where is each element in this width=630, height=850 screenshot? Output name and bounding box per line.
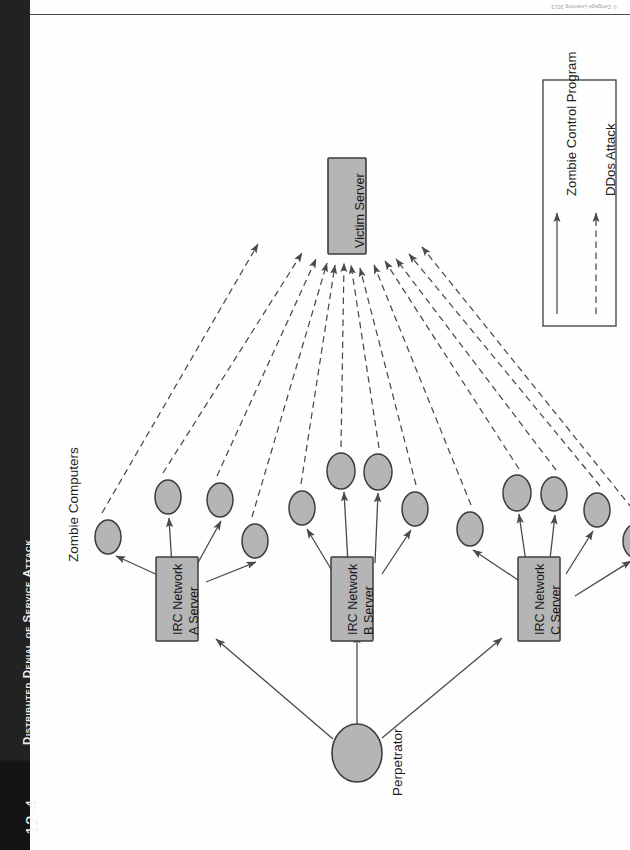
- node-shapes: [95, 158, 630, 782]
- legend-label-control: Zombie Control Program: [564, 52, 579, 196]
- irc-c-label-line2: C Server: [549, 585, 564, 635]
- ddos-diagram: Zombie Computers Perpetrator Victim Serv…: [30, 16, 630, 850]
- irc-b-label-line2: B Server: [362, 586, 377, 635]
- zombie-computers-label: Zombie Computers: [66, 447, 81, 562]
- irc-c-label-line1: IRC Network: [533, 564, 548, 635]
- copyright-credit: © Cengage Learning 2013: [538, 1, 630, 12]
- header-rule: [30, 14, 630, 15]
- victim-server-label: Victim Server: [353, 173, 368, 248]
- legend-label-attack: DDos Attack: [603, 123, 618, 196]
- zombie-nodes: [95, 453, 630, 558]
- irc-a-label-line2: A Server: [187, 587, 202, 635]
- legend-box: [543, 80, 616, 326]
- perpetrator-label: Perpetrator: [390, 728, 405, 796]
- irc-b-label-line1: IRC Network: [346, 564, 361, 635]
- diagram-svg: [30, 16, 630, 850]
- irc-a-label-line1: IRC Network: [171, 564, 186, 635]
- textbook-page: Distributed Denial of Service Attack 12-…: [0, 0, 630, 850]
- perpetrator-node: [332, 724, 382, 782]
